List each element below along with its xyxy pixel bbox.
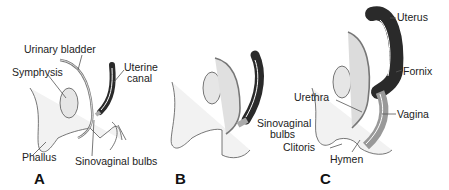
label-vagina: Vagina: [397, 109, 429, 120]
label-sinovaginal-bulbs-a: Sinovaginal bulbs: [75, 156, 157, 167]
label-symphysis-a: Symphysis: [12, 67, 63, 78]
label-hymen: Hymen: [330, 154, 363, 165]
label-phallus: Phallus: [22, 152, 56, 163]
panel-letter-a: A: [34, 170, 45, 187]
panel-letter-c: C: [320, 170, 331, 187]
diagram-canvas: [0, 0, 449, 190]
label-urethra: Urethra: [294, 92, 329, 103]
bladder-c: [348, 32, 369, 128]
label-urinary-bladder: Urinary bladder: [24, 44, 96, 55]
label-sinovaginal-bulbs-b-line2: bulbs: [270, 129, 295, 140]
panel-c-drawing: [312, 13, 402, 154]
panel-b-drawing: [171, 55, 259, 158]
label-fornix: Fornix: [403, 66, 432, 77]
label-uterus: Uterus: [397, 12, 428, 23]
label-uterine-canal-line2: canal: [127, 73, 152, 84]
symphysis-c: [333, 66, 351, 98]
symphysis-a: [60, 88, 78, 118]
label-clitoris: Clitoris: [283, 142, 315, 153]
panel-letter-b: B: [175, 170, 186, 187]
